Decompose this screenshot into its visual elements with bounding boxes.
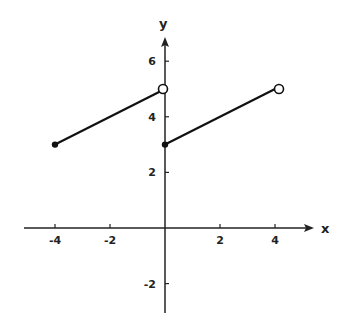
line-segment — [165, 89, 275, 145]
x-axis: x — [24, 221, 330, 236]
x-tick-label: -4 — [49, 234, 62, 247]
open-endpoint — [159, 85, 168, 94]
y-axis: y — [159, 16, 169, 313]
closed-endpoint — [52, 141, 58, 147]
data-series — [52, 85, 284, 148]
y-tick-label: -2 — [144, 278, 156, 291]
x-tick-label: 2 — [216, 234, 224, 247]
x-tick-label: -2 — [104, 234, 116, 247]
open-endpoint — [275, 85, 284, 94]
y-axis-label: y — [159, 16, 168, 31]
y-tick-label: 6 — [148, 55, 156, 68]
y-tick-label: 2 — [148, 166, 156, 179]
x-tick-label: 4 — [271, 234, 279, 247]
piecewise-graph: x y -4-224-2246 — [0, 0, 345, 326]
closed-endpoint — [162, 141, 168, 147]
x-axis-label: x — [321, 221, 330, 236]
y-tick-label: 4 — [148, 111, 156, 124]
